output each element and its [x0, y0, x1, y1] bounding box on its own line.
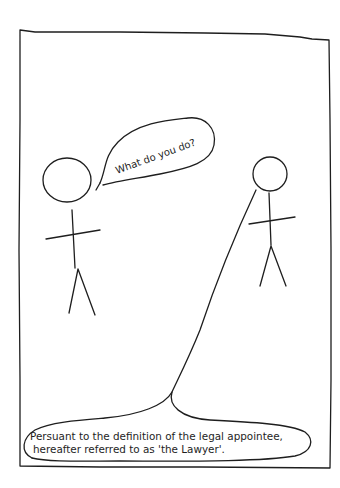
comic-panel-canvas: What do you do? Persuant to the definiti…	[0, 0, 340, 488]
right-stick-figure	[249, 157, 295, 286]
question-speech-bubble: What do you do?	[96, 118, 214, 190]
question-bubble-tail	[96, 183, 100, 190]
left-figure-legs	[69, 269, 95, 315]
right-figure-body	[269, 193, 271, 245]
right-figure-head	[253, 157, 287, 191]
answer-text-line-2: hereafter referred to as 'the Lawyer'.	[33, 443, 225, 455]
left-figure-head	[43, 158, 91, 202]
right-figure-arms	[249, 217, 295, 224]
question-text: What do you do?	[114, 137, 197, 176]
left-stick-figure	[43, 158, 100, 315]
right-figure-legs	[260, 246, 286, 286]
left-figure-body	[72, 210, 75, 268]
answer-bubble-tail	[24, 190, 256, 458]
panel-border	[19, 30, 331, 468]
answer-text-line-1: Persuant to the definition of the legal …	[30, 430, 283, 442]
